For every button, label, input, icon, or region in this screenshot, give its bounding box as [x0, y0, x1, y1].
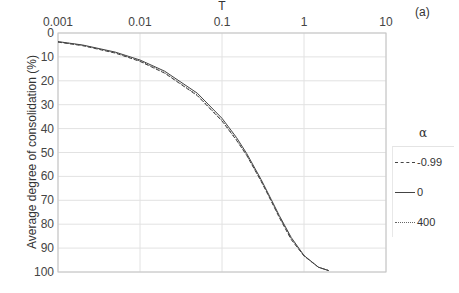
solid-line-icon — [395, 192, 415, 193]
series-line--0.99 — [58, 42, 329, 271]
legend-label: 400 — [417, 216, 435, 228]
dotted-line-icon — [395, 222, 415, 223]
legend-item-400: 400 — [393, 207, 454, 237]
gridlines — [58, 33, 386, 272]
plot-area — [0, 0, 459, 293]
legend-label: 0 — [417, 186, 423, 198]
legend-item-neg099: -0.99 — [393, 147, 454, 177]
series-line-400 — [58, 42, 329, 271]
series-line-0 — [58, 42, 329, 271]
legend-item-0: 0 — [393, 177, 454, 207]
dashed-line-icon — [395, 162, 415, 163]
legend: α -0.99 0 400 — [392, 120, 454, 237]
legend-title: α — [392, 120, 454, 146]
data-series — [58, 42, 329, 271]
legend-label: -0.99 — [417, 156, 442, 168]
